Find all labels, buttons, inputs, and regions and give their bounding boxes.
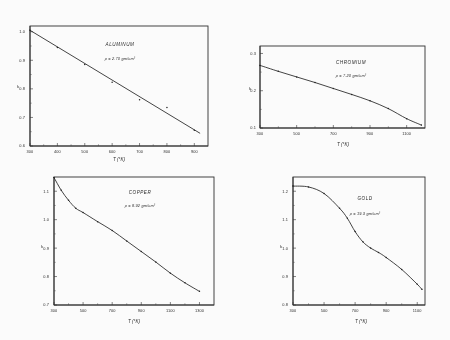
data-point: [401, 269, 403, 271]
data-point: [406, 118, 408, 120]
data-point: [259, 65, 261, 67]
data-point: [378, 252, 380, 254]
x-tick-labels: 30050070090011001300: [51, 308, 205, 313]
data-point: [388, 108, 390, 110]
data-points: [292, 185, 422, 290]
x-tick-label: 900: [367, 131, 375, 136]
y-tick-label: 0.8: [19, 86, 25, 91]
y-tick-labels: 0.70.80.91.01.1: [43, 189, 49, 308]
y-tick-label: 0.6: [19, 143, 25, 148]
x-tick-label: 900: [138, 308, 146, 313]
data-curve: [293, 186, 422, 289]
chart-chromium: 0.10.20.3 3005007009001100 CHROMIUM ρ = …: [243, 40, 443, 150]
data-point: [369, 100, 371, 102]
y-tick-label: 0.2: [250, 88, 256, 93]
data-point: [126, 240, 128, 242]
x-tick-labels: 3005007009001100: [290, 308, 423, 313]
data-point: [111, 230, 113, 232]
data-point: [141, 251, 143, 253]
y-tick-labels: 0.60.70.80.91.0: [19, 29, 25, 148]
data-point: [333, 88, 335, 90]
panel-gold: 0.80.91.01.11.2 3005007009001100 GOLD ρ …: [265, 172, 445, 332]
x-tick-label: 300: [257, 131, 265, 136]
x-tick-label: 500: [293, 131, 301, 136]
panel-chromium: 0.10.20.3 3005007009001100 CHROMIUM ρ = …: [243, 40, 443, 150]
data-point: [184, 282, 186, 284]
data-point: [139, 99, 141, 101]
plot-frame: [260, 46, 425, 128]
x-tick-label: 600: [109, 149, 117, 154]
data-point: [199, 291, 201, 293]
data-point: [416, 283, 418, 285]
x-tick-label: 500: [321, 308, 329, 313]
density-annotation: ρ = 8.92 gm/cm³: [124, 203, 156, 208]
x-tick-label: 700: [109, 308, 117, 313]
data-point: [155, 261, 157, 263]
x-tick-label: 900: [383, 308, 391, 313]
y-tick-label: 0.9: [282, 274, 288, 279]
x-tick-label: 1100: [402, 131, 412, 136]
y-tick-labels: 0.80.91.01.11.2: [282, 189, 288, 308]
x-tick-label: 500: [81, 149, 89, 154]
y-tick-label: 1.0: [19, 29, 25, 34]
data-point: [61, 190, 63, 192]
x-tick-label: 1100: [166, 308, 176, 313]
data-point: [170, 272, 172, 274]
x-tick-label: 300: [51, 308, 59, 313]
x-tick-label: 300: [27, 149, 35, 154]
data-point: [354, 231, 356, 233]
x-tick-label: 700: [330, 131, 338, 136]
density-annotation: ρ = 7.20 gm/cm³: [335, 73, 367, 78]
data-point: [57, 47, 59, 49]
x-tick-label: 1300: [195, 308, 205, 313]
y-tick-label: 0.8: [282, 302, 288, 307]
data-point: [362, 241, 364, 243]
x-axis-title: T (°K): [128, 319, 141, 324]
density-annotation: ρ = 2.70 gm/cm³: [104, 56, 136, 61]
data-point: [53, 177, 55, 179]
x-tick-label: 400: [54, 149, 62, 154]
data-point: [278, 71, 280, 73]
y-tick-label: 0.3: [250, 51, 256, 56]
data-point: [385, 257, 387, 259]
x-axis-title: T (°K): [337, 142, 350, 147]
series-title: COPPER: [129, 190, 152, 195]
panel-copper: 0.70.80.91.01.1 30050070090011001300 COP…: [28, 172, 228, 332]
data-point: [421, 289, 423, 291]
data-point: [111, 82, 113, 84]
x-axis-title: T (°K): [113, 157, 126, 162]
x-tick-label: 700: [136, 149, 144, 154]
y-tick-marks: [293, 191, 296, 305]
y-tick-label: 1.2: [282, 189, 288, 194]
data-point: [314, 82, 316, 84]
data-point: [84, 64, 86, 65]
data-curve: [54, 178, 199, 292]
x-tick-label: 800: [164, 149, 172, 154]
y-tick-label: 1.1: [282, 217, 288, 222]
figure-sheet: 0.60.70.80.91.0 300400500600700800900 AL…: [0, 0, 450, 340]
y-tick-label: 0.8: [43, 274, 49, 279]
data-point: [166, 107, 168, 109]
density-annotation: ρ = 19.3 gm/cm³: [349, 211, 381, 216]
series-title: GOLD: [357, 196, 372, 201]
x-tick-marks: [293, 302, 417, 305]
data-point: [308, 186, 310, 188]
y-tick-label: 1.0: [282, 246, 288, 251]
x-tick-labels: 300400500600700800900: [27, 149, 199, 154]
x-axis-title: T (°K): [355, 319, 368, 324]
y-tick-label: 0.9: [19, 58, 25, 63]
data-point: [421, 124, 423, 126]
data-point: [347, 217, 349, 219]
y-tick-label: 0.7: [43, 302, 49, 307]
y-tick-label: 0.7: [19, 115, 25, 120]
data-point: [370, 247, 372, 249]
data-point: [97, 221, 99, 223]
data-point: [323, 193, 325, 195]
panel-aluminum: 0.60.70.80.91.0 300400500600700800900 AL…: [8, 18, 223, 163]
chart-aluminum: 0.60.70.80.91.0 300400500600700800900 AL…: [8, 18, 223, 163]
y-tick-label: 0.9: [43, 246, 49, 251]
data-point: [29, 30, 31, 32]
x-tick-label: 700: [352, 308, 360, 313]
x-tick-label: 300: [290, 308, 298, 313]
x-tick-marks: [54, 302, 199, 305]
